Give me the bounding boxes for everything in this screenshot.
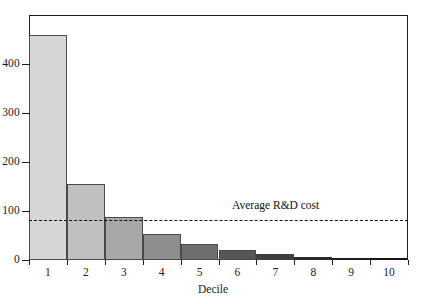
bar-decile-9 — [332, 258, 370, 260]
x-tick-7 — [294, 260, 295, 265]
y-tick-label-100: 100 — [0, 205, 20, 217]
y-tick-label-0: 0 — [0, 254, 20, 266]
y-tick-300 — [22, 113, 30, 114]
x-tick-label-8: 8 — [293, 266, 333, 278]
x-tick-10 — [408, 260, 409, 265]
x-tick-8 — [332, 260, 333, 265]
x-tick-1 — [67, 260, 68, 265]
x-axis-title: Decile — [0, 283, 426, 295]
bar-decile-6 — [219, 250, 257, 260]
x-tick-label-2: 2 — [66, 266, 106, 278]
bar-decile-5 — [181, 244, 219, 260]
x-tick-6 — [256, 260, 257, 265]
bar-decile-3 — [105, 217, 143, 260]
x-tick-0 — [29, 260, 30, 265]
bar-decile-8 — [294, 257, 332, 260]
y-tick-100 — [22, 211, 30, 212]
x-tick-label-9: 9 — [331, 266, 371, 278]
bar-decile-1 — [29, 35, 67, 260]
y-tick-200 — [22, 162, 30, 163]
x-tick-2 — [105, 260, 106, 265]
bar-decile-7 — [256, 254, 294, 260]
average-rd-cost-line — [29, 220, 408, 221]
y-tick-label-200: 200 — [0, 156, 20, 168]
average-rd-cost-label: Average R&D cost — [232, 199, 319, 211]
y-tick-400 — [22, 64, 30, 65]
bar-decile-10 — [370, 258, 408, 260]
x-tick-label-10: 10 — [369, 266, 409, 278]
x-tick-label-3: 3 — [104, 266, 144, 278]
bar-decile-4 — [143, 234, 181, 260]
x-tick-5 — [219, 260, 220, 265]
y-tick-label-400: 400 — [0, 58, 20, 70]
y-tick-label-300: 300 — [0, 107, 20, 119]
x-tick-label-6: 6 — [217, 266, 257, 278]
x-tick-4 — [181, 260, 182, 265]
x-tick-label-4: 4 — [142, 266, 182, 278]
x-tick-9 — [370, 260, 371, 265]
bar-decile-2 — [67, 184, 105, 260]
x-tick-label-7: 7 — [255, 266, 295, 278]
x-tick-3 — [143, 260, 144, 265]
x-tick-label-1: 1 — [28, 266, 68, 278]
chart-container: Average R&D cost 0100200300400 123456789… — [0, 0, 426, 304]
x-tick-label-5: 5 — [180, 266, 220, 278]
bars-layer — [29, 15, 408, 260]
